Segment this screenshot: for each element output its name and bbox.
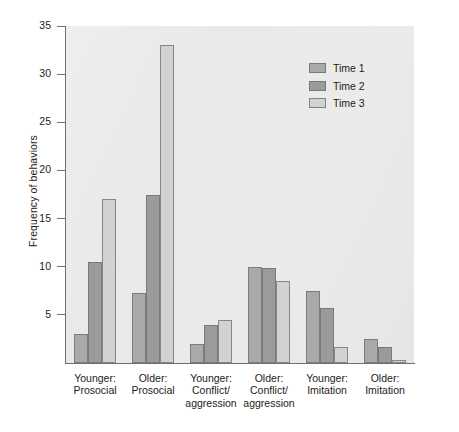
y-axis-tick: [57, 266, 65, 267]
bar: [204, 325, 217, 364]
y-axis-tick: [57, 26, 65, 27]
bar: [276, 281, 289, 363]
x-axis-label-line: aggression: [232, 397, 306, 409]
legend-label: Time 3: [333, 97, 365, 109]
legend-label: Time 2: [333, 80, 365, 92]
y-axis-tick-label: 15: [20, 212, 51, 224]
bar: [262, 268, 275, 363]
bar: [102, 199, 115, 363]
y-axis-tick-label: 20: [20, 163, 51, 175]
y-axis-tick-label: 25: [20, 115, 51, 127]
y-axis-tick-label: 10: [20, 260, 51, 272]
bar: [334, 347, 347, 363]
y-axis-tick: [57, 122, 65, 123]
bar: [364, 339, 377, 363]
bar: [306, 291, 319, 363]
bar: [392, 360, 405, 363]
y-axis-tick-label: 35: [20, 19, 51, 31]
legend-label: Time 1: [333, 62, 365, 74]
legend-swatch-icon: [309, 63, 326, 73]
y-axis-tick: [57, 74, 65, 75]
legend-swatch-icon: [309, 81, 326, 91]
x-axis-label-line: Older:: [348, 372, 422, 384]
y-axis-tick: [57, 170, 65, 171]
legend-item: Time 1: [309, 61, 365, 75]
bar: [160, 45, 173, 363]
legend: Time 1Time 2Time 3: [309, 61, 365, 114]
bar: [320, 308, 333, 363]
x-axis-line: [65, 363, 415, 364]
bar: [74, 334, 87, 363]
bar-chart-figure: Frequency of behaviors 5101520253035 You…: [0, 0, 459, 432]
bar: [132, 293, 145, 363]
x-axis-label-line: Imitation: [348, 384, 422, 396]
bar: [218, 320, 231, 363]
y-axis-tick-label: 30: [20, 67, 51, 79]
bar: [146, 195, 159, 364]
y-axis-tick-label: 5: [20, 308, 51, 320]
y-axis-tick: [57, 314, 65, 315]
legend-item: Time 2: [309, 79, 365, 93]
y-axis-line: [65, 26, 66, 364]
bar: [88, 262, 101, 363]
x-axis-label: Older:Imitation: [348, 372, 422, 397]
bar: [378, 347, 391, 363]
bar: [248, 267, 261, 363]
y-axis-tick: [57, 218, 65, 219]
bar: [190, 344, 203, 363]
legend-swatch-icon: [309, 98, 326, 108]
legend-item: Time 3: [309, 96, 365, 110]
